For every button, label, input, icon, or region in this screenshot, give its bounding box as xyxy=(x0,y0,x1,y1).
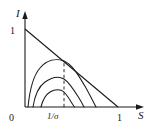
y-tick-label-one: 1 xyxy=(10,26,15,36)
origin-label: 0 xyxy=(9,113,14,123)
series-curve-middle xyxy=(33,77,84,107)
plot-canvas xyxy=(0,0,155,133)
x-tick-label-one: 1 xyxy=(117,113,122,123)
y-axis-label: I xyxy=(16,8,20,19)
x-tick-label-inverse-sigma: 1/σ xyxy=(47,112,58,121)
series-line-threshold xyxy=(25,29,118,107)
series-curve-inner xyxy=(41,90,75,107)
x-axis-label: S xyxy=(138,110,144,121)
sir-phase-plane-figure: I S 1 0 1/σ 1 xyxy=(0,0,155,133)
series-curve-outer xyxy=(28,60,96,107)
y-axis xyxy=(22,11,27,107)
